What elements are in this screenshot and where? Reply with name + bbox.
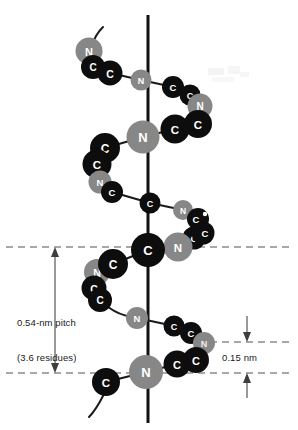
c-terminus-tail xyxy=(89,394,104,417)
atom-C-14: C xyxy=(101,181,123,203)
atom-C-15: C xyxy=(140,193,161,214)
atom-N-26: N xyxy=(126,307,148,329)
atom-C-9: C xyxy=(161,115,190,144)
rise-annotation-label: 0.15 nm xyxy=(222,352,257,364)
pitch-annotation-label: 0.54-nm pitch (3.6 residues) xyxy=(17,294,76,386)
atom-N-32: N xyxy=(129,355,163,389)
atom-group: N C C N C C N xyxy=(76,38,216,397)
atom-C-3: C xyxy=(98,61,123,86)
alpha-helix-figure: N C C N C C N xyxy=(0,0,298,430)
watermark-artifact xyxy=(208,66,249,82)
atom-C-20: C xyxy=(192,222,215,245)
atom-C-25: C xyxy=(88,288,112,312)
atom-C-22: C xyxy=(98,249,128,279)
atom-C-31: C xyxy=(164,351,191,378)
atom-N-4: N xyxy=(131,70,152,91)
pitch-residues-text: (3.6 residues) xyxy=(17,352,76,364)
atom-N-19: N xyxy=(164,233,193,262)
oxygen-dot xyxy=(203,212,207,216)
atom-C-21: C xyxy=(131,233,165,267)
terminal-tails xyxy=(89,27,104,417)
atom-C-33: C xyxy=(92,368,120,396)
pitch-value-text: 0.54-nm pitch xyxy=(17,317,76,329)
atom-N-10: N xyxy=(127,121,160,154)
